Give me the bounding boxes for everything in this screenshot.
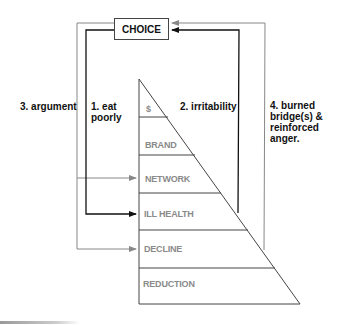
choice-box: CHOICE [114, 18, 169, 40]
tier-money: $ [146, 104, 151, 114]
label-eat-poorly-line2: poorly [91, 112, 122, 123]
tier-reduction: REDUCTION [143, 279, 195, 289]
tier-decline: DECLINE [144, 244, 182, 254]
tier-network: NETWORK [145, 174, 190, 184]
label-burned-line1: 4. burned [270, 100, 315, 111]
choice-label: CHOICE [122, 24, 161, 35]
tier-brand: BRAND [145, 140, 177, 150]
label-eat-poorly-line1: 1. eat [91, 101, 117, 112]
label-irritability: 2. irritability [180, 101, 237, 112]
label-burned-line2: bridge(s) & [270, 111, 323, 122]
label-burned-line4: anger. [270, 133, 299, 144]
tier-ill-health: ILL HEALTH [144, 209, 194, 219]
diagram-lines [0, 0, 339, 325]
bottom-gradient-bar [0, 321, 80, 324]
label-burned-line3: reinforced [270, 122, 319, 133]
label-argument: 3. argument [20, 101, 77, 112]
